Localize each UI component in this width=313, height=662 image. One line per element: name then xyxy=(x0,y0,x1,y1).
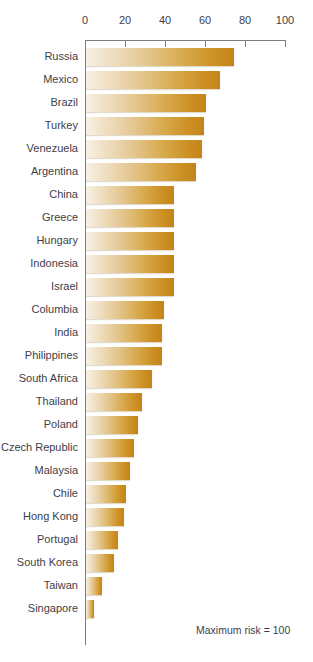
bar-row: Venezuela xyxy=(0,138,313,161)
bar-category-label: Turkey xyxy=(0,118,78,132)
chart-footnote: Maximum risk = 100 xyxy=(196,624,290,637)
bar-category-label: Mexico xyxy=(0,72,78,86)
bar-track xyxy=(86,508,313,526)
bar xyxy=(86,209,174,227)
bar-row: Philippines xyxy=(0,345,313,368)
bar xyxy=(86,416,138,434)
bar-category-label: Israel xyxy=(0,279,78,293)
bar-category-label: Philippines xyxy=(0,348,78,362)
bar-track xyxy=(86,324,313,342)
bar-track xyxy=(86,48,313,66)
bar xyxy=(86,393,142,411)
bar xyxy=(86,232,174,250)
bar xyxy=(86,186,174,204)
bar-track xyxy=(86,531,313,549)
bar-row: Thailand xyxy=(0,391,313,414)
bar-row: Turkey xyxy=(0,115,313,138)
bar xyxy=(86,117,204,135)
bar-track xyxy=(86,117,313,135)
bar xyxy=(86,140,202,158)
bar-row: South Africa xyxy=(0,368,313,391)
bar-row: South Korea xyxy=(0,552,313,575)
bar xyxy=(86,71,220,89)
bar xyxy=(86,163,196,181)
bar-category-label: Taiwan xyxy=(0,578,78,592)
bar-category-label: Greece xyxy=(0,210,78,224)
bar-track xyxy=(86,232,313,250)
bar-category-label: India xyxy=(0,325,78,339)
bar xyxy=(86,485,126,503)
bar-row: Columbia xyxy=(0,299,313,322)
bar-row: Poland xyxy=(0,414,313,437)
bar-category-label: Argentina xyxy=(0,164,78,178)
bar xyxy=(86,94,206,112)
bar-row: Greece xyxy=(0,207,313,230)
axis-tick-label: 40 xyxy=(159,14,171,26)
bar xyxy=(86,531,118,549)
bar-track xyxy=(86,94,313,112)
bar xyxy=(86,600,94,618)
bar-track xyxy=(86,278,313,296)
bar-row: India xyxy=(0,322,313,345)
bar-track xyxy=(86,140,313,158)
bar-row: Hungary xyxy=(0,230,313,253)
bar-track xyxy=(86,163,313,181)
bar-track xyxy=(86,462,313,480)
bar-row: Malaysia xyxy=(0,460,313,483)
bar xyxy=(86,324,162,342)
bar xyxy=(86,48,234,66)
bar-category-label: South Africa xyxy=(0,371,78,385)
bar-track xyxy=(86,347,313,365)
bar-track xyxy=(86,439,313,457)
bar-rows: RussiaMexicoBrazilTurkeyVenezuelaArgenti… xyxy=(0,46,313,621)
bar-row: Mexico xyxy=(0,69,313,92)
bar-track xyxy=(86,301,313,319)
axis-tick-label: 100 xyxy=(276,14,294,26)
axis-tick-label: 80 xyxy=(239,14,251,26)
bar-row: China xyxy=(0,184,313,207)
bar-category-label: Indonesia xyxy=(0,256,78,270)
bar-track xyxy=(86,186,313,204)
bar-category-label: Hong Kong xyxy=(0,509,78,523)
bar xyxy=(86,577,102,595)
bar-track xyxy=(86,393,313,411)
bar-track xyxy=(86,600,313,618)
bar xyxy=(86,508,124,526)
bar xyxy=(86,462,130,480)
bar-category-label: Poland xyxy=(0,417,78,431)
bar-row: Argentina xyxy=(0,161,313,184)
bar-track xyxy=(86,577,313,595)
bar xyxy=(86,439,134,457)
bar-track xyxy=(86,255,313,273)
bar-row: Portugal xyxy=(0,529,313,552)
bar-row: Czech Republic xyxy=(0,437,313,460)
bar-track xyxy=(86,209,313,227)
axis-top-line xyxy=(85,40,285,41)
bar xyxy=(86,370,152,388)
bar-row: Israel xyxy=(0,276,313,299)
bar-category-label: Czech Republic xyxy=(0,440,78,454)
bar-category-label: China xyxy=(0,187,78,201)
bar-row: Singapore xyxy=(0,598,313,621)
bar-category-label: Portugal xyxy=(0,532,78,546)
bar-track xyxy=(86,554,313,572)
bar-category-label: Columbia xyxy=(0,302,78,316)
axis-tick-label: 60 xyxy=(199,14,211,26)
bar-row: Chile xyxy=(0,483,313,506)
bar-category-label: Singapore xyxy=(0,601,78,615)
bar-category-label: Thailand xyxy=(0,394,78,408)
bar-category-label: South Korea xyxy=(0,555,78,569)
bar-track xyxy=(86,485,313,503)
bar-row: Brazil xyxy=(0,92,313,115)
bar-row: Russia xyxy=(0,46,313,69)
axis-tick-label: 0 xyxy=(82,14,88,26)
bar xyxy=(86,301,164,319)
bar xyxy=(86,347,162,365)
bar-row: Taiwan xyxy=(0,575,313,598)
bar-row: Hong Kong xyxy=(0,506,313,529)
bar xyxy=(86,554,114,572)
chart-x-axis: 020406080100 xyxy=(0,0,313,48)
bar-category-label: Venezuela xyxy=(0,141,78,155)
axis-tick-label: 20 xyxy=(119,14,131,26)
bar xyxy=(86,278,174,296)
